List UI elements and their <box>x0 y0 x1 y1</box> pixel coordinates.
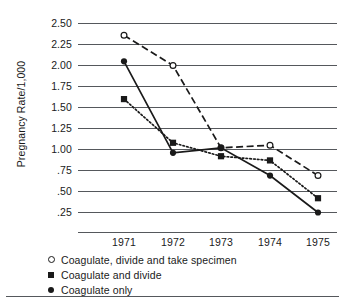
series-line <box>124 61 318 212</box>
legend-item: Coagulate only <box>44 282 334 297</box>
legend-item-label: Coagulate and divide <box>58 269 162 281</box>
data-point <box>170 150 176 156</box>
x-axis-tick-label: 1971 <box>102 236 146 248</box>
data-point <box>218 153 224 159</box>
data-point <box>267 157 273 163</box>
data-point <box>315 209 321 215</box>
data-point <box>315 173 321 179</box>
filled-square-icon <box>44 268 58 282</box>
data-point <box>218 145 224 151</box>
data-point <box>267 172 273 178</box>
open-circle-glyph <box>48 256 55 263</box>
data-point <box>121 96 127 102</box>
legend-item: Coagulate and divide <box>44 267 334 282</box>
filled-square-glyph <box>48 272 54 278</box>
filled-circle-icon <box>44 283 58 297</box>
data-point <box>267 142 273 148</box>
data-point <box>121 32 127 38</box>
filled-circle-glyph <box>48 287 54 293</box>
legend-item-label: Coagulate only <box>58 284 132 296</box>
legend-item: Coagulate, divide and take specimen <box>44 252 334 267</box>
x-axis-tick-label: 1972 <box>151 236 195 248</box>
data-point <box>170 140 176 146</box>
open-circle-icon <box>44 253 58 267</box>
legend-item-label: Coagulate, divide and take specimen <box>58 254 237 266</box>
x-axis-tick-label: 1973 <box>199 236 243 248</box>
data-point <box>121 58 127 64</box>
data-point <box>170 63 176 69</box>
chart-legend: Coagulate, divide and take specimenCoagu… <box>44 252 334 297</box>
x-axis-tick-label: 1974 <box>248 236 292 248</box>
x-axis-tick-label: 1975 <box>296 236 340 248</box>
pregnancy-rate-line-chart: Pregnancy Rate/1,000 2.502.252.001.751.5… <box>0 0 345 303</box>
data-point <box>315 195 321 201</box>
